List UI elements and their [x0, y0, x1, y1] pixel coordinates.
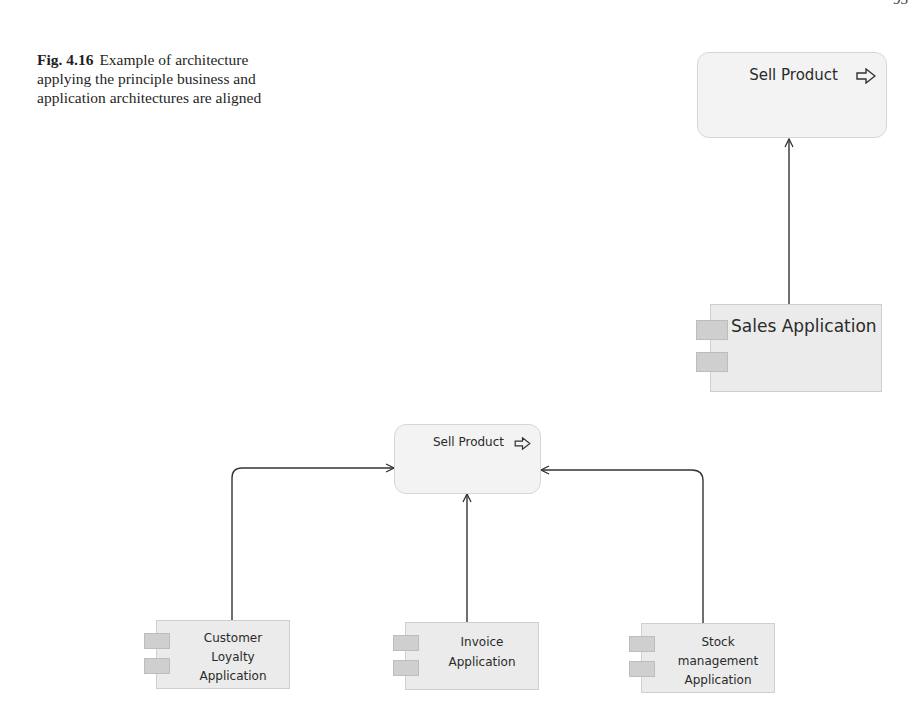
label-line: Application	[662, 671, 774, 690]
component-icon	[144, 633, 170, 649]
process-arrow-icon	[514, 437, 531, 450]
label-line: management	[662, 652, 774, 671]
process-label: Sell Product	[433, 435, 504, 449]
label-line: Application	[426, 652, 538, 672]
application-component-stock-management[interactable]: Stock management Application	[641, 623, 775, 693]
business-process-sell-product-top[interactable]: Sell Product	[697, 52, 887, 138]
process-label: Sell Product	[749, 66, 838, 84]
component-icon	[629, 661, 655, 677]
component-icon	[629, 636, 655, 652]
business-process-sell-product-bottom[interactable]: Sell Product	[394, 424, 541, 494]
component-label: Customer Loyalty Application	[177, 629, 289, 686]
label-line: Application	[177, 667, 289, 686]
figure-caption: Fig. 4.16Example of architecture applyin…	[37, 50, 297, 107]
component-icon	[144, 658, 170, 674]
component-icon	[393, 660, 419, 676]
label-line: Customer	[177, 629, 289, 648]
label-line: Loyalty	[177, 648, 289, 667]
relation-stock-to-sell	[541, 470, 703, 623]
component-label: Sales Application	[731, 316, 877, 336]
process-arrow-icon	[856, 68, 876, 84]
label-line: Invoice	[426, 632, 538, 652]
relation-loyalty-to-sell	[232, 468, 394, 620]
label-line: Stock	[662, 633, 774, 652]
application-component-invoice[interactable]: Invoice Application	[405, 622, 539, 690]
application-component-sales[interactable]: Sales Application	[710, 304, 882, 392]
figure-label: Fig. 4.16	[37, 51, 93, 68]
component-label: Invoice Application	[426, 632, 538, 672]
component-icon	[696, 320, 728, 340]
component-label: Stock management Application	[662, 633, 774, 690]
component-icon	[393, 635, 419, 651]
component-icon	[696, 352, 728, 372]
application-component-customer-loyalty[interactable]: Customer Loyalty Application	[156, 620, 290, 689]
page-number: 93	[893, 0, 908, 8]
